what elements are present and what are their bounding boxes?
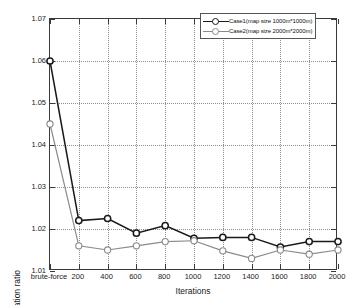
data-point-marker — [162, 239, 168, 245]
data-point-marker — [335, 239, 341, 245]
x-tick-top — [338, 19, 339, 24]
x-tick-label: 400 — [100, 272, 113, 281]
data-point-marker — [105, 247, 111, 253]
y-tick — [50, 271, 55, 272]
x-tick-label: 600 — [129, 272, 142, 281]
x-tick-label: 2000 — [329, 272, 346, 281]
data-point-marker — [306, 239, 312, 245]
data-point-marker — [277, 247, 283, 253]
data-point-marker — [249, 255, 255, 261]
y-tick-label: 1.04 — [20, 140, 46, 149]
data-series-layer — [50, 19, 338, 271]
x-tick-label: 1200 — [213, 272, 230, 281]
series-line — [50, 61, 338, 247]
data-point-marker — [47, 121, 53, 127]
data-point-marker — [249, 234, 255, 240]
y-tick-label: 1.02 — [20, 224, 46, 233]
x-tick-label: 1400 — [242, 272, 259, 281]
y-tick-label: 1.06 — [20, 56, 46, 65]
data-point-marker — [220, 234, 226, 240]
legend-marker-icon — [212, 18, 219, 25]
data-point-marker — [47, 58, 53, 64]
data-point-marker — [335, 247, 341, 253]
x-tick-label: 800 — [158, 272, 171, 281]
legend-marker-icon — [212, 28, 219, 35]
data-point-marker — [76, 218, 82, 224]
legend-label: Case1(map size 1000m*1000m) — [229, 16, 312, 26]
x-tick-label: 1600 — [271, 272, 288, 281]
data-point-marker — [105, 215, 111, 221]
data-point-marker — [306, 251, 312, 257]
legend-sample — [203, 16, 229, 26]
x-tick-label: 200 — [72, 272, 85, 281]
legend: Case1(map size 1000m*1000m)Case2(map siz… — [200, 13, 316, 39]
legend-item: Case2(map size 2000m*2000m) — [203, 26, 312, 36]
legend-label: Case2(map size 2000m*2000m) — [229, 26, 312, 36]
data-point-marker — [133, 243, 139, 249]
legend-sample — [203, 26, 229, 36]
legend-item: Case1(map size 1000m*1000m) — [203, 16, 312, 26]
y-axis-title: Average capacity increase utilization ra… — [12, 270, 22, 305]
x-tick-label: 1800 — [300, 272, 317, 281]
x-tick — [338, 264, 339, 269]
data-point-marker — [162, 223, 168, 229]
figure: Average capacity increase utilization ra… — [0, 0, 354, 305]
x-axis-title: Iterations — [176, 286, 211, 296]
x-tick-label: brute-force — [31, 272, 67, 281]
data-point-marker — [220, 248, 226, 254]
data-point-marker — [191, 238, 197, 244]
y-tick-right — [331, 271, 336, 272]
data-point-marker — [76, 243, 82, 249]
data-point-marker — [133, 230, 139, 236]
y-tick-label: 1.05 — [20, 98, 46, 107]
y-tick-label: 1.03 — [20, 182, 46, 191]
plot-area — [49, 18, 337, 270]
x-tick-label: 1000 — [185, 272, 202, 281]
y-tick-label: 1.07 — [20, 14, 46, 23]
